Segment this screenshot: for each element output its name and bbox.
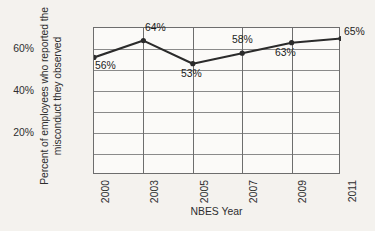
data-point-2011 [338, 36, 341, 41]
y-tick-label-60: 60% [0, 43, 34, 54]
y-axis-title-line-2: misconduct they observed [51, 37, 64, 155]
series-markers [94, 36, 341, 66]
data-label-2000: 56% [95, 60, 116, 71]
x-tick-label-2003: 2003 [149, 180, 160, 224]
x-tick-label-2007: 2007 [248, 180, 259, 224]
x-tick-label-2000: 2000 [100, 180, 111, 224]
data-label-2003: 64% [145, 22, 166, 33]
data-point-2007 [240, 51, 245, 56]
data-point-2009 [289, 40, 294, 45]
data-label-2009: 63% [275, 47, 296, 58]
data-label-2011: 65% [344, 26, 365, 37]
series-polyline [94, 39, 341, 64]
data-series-line [94, 28, 341, 175]
data-label-2005: 53% [181, 68, 202, 79]
y-axis-title: Percent of employees who reported the mi… [34, 9, 68, 184]
chart-figure: Percent of employees who reported the mi… [0, 0, 375, 231]
data-point-2003 [141, 38, 146, 43]
plot-area [93, 27, 340, 174]
y-tick-label-40: 40% [0, 85, 34, 96]
x-axis-title: NBES Year [93, 206, 340, 217]
x-tick-label-2005: 2005 [199, 180, 210, 224]
data-label-2007: 58% [232, 34, 253, 45]
y-tick-label-20: 20% [0, 127, 34, 138]
y-axis-title-line-1: Percent of employees who reported the [37, 7, 50, 185]
data-point-2005 [190, 61, 195, 66]
x-tick-label-2011: 2011 [347, 180, 358, 224]
x-tick-label-2009: 2009 [297, 180, 308, 224]
